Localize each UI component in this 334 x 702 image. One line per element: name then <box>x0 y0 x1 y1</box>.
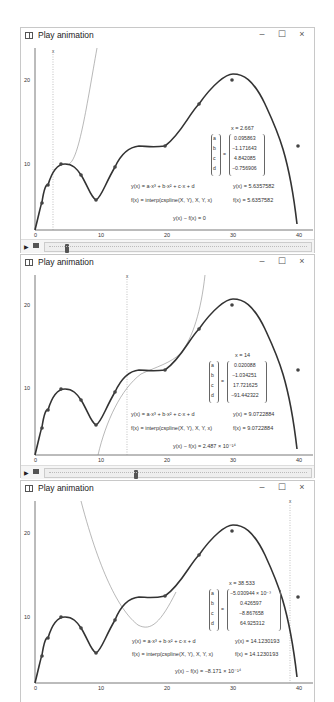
close-button[interactable]: × <box>295 482 309 492</box>
minimize-button[interactable]: – <box>255 256 269 266</box>
maximize-button[interactable]: ☐ <box>275 29 289 39</box>
x-tick-0: 0 <box>34 685 37 691</box>
cursor-label: x <box>52 49 54 54</box>
spline-equation: f(x) = interp(cspline(X, Y), X, Y, x) <box>132 651 213 657</box>
animation-window-3: Play animation – ☐ × x 20 10 0 10 20 30 … <box>20 480 315 702</box>
y-tick-20: 20 <box>24 77 30 83</box>
y-tick-20: 20 <box>24 302 30 308</box>
y-tick-20: 20 <box>24 530 30 536</box>
title-bar[interactable]: Play animation – ☐ × <box>21 481 314 497</box>
title-bar[interactable]: Play animation – ☐ × <box>21 28 314 44</box>
y-tick-10: 10 <box>24 385 30 391</box>
window-title: Play animation <box>38 257 94 267</box>
window-title: Play animation <box>38 30 94 40</box>
play-icon[interactable]: ▶ <box>24 243 29 250</box>
x-tick-20: 20 <box>164 457 170 463</box>
plot-area: x 20 10 0 10 20 30 40 x = 38.533 a b c d… <box>21 497 314 702</box>
x-tick-20: 20 <box>164 232 170 238</box>
spline-equation: f(x) = interp(cspline(X, Y), X, Y, x) <box>131 197 212 203</box>
spline-value: f(x) = 9.0722884 <box>233 425 273 431</box>
x-tick-30: 30 <box>230 232 236 238</box>
title-bar[interactable]: Play animation – ☐ × <box>21 255 314 271</box>
close-button[interactable]: × <box>295 256 309 266</box>
minimize-button[interactable]: – <box>255 482 269 492</box>
spline-value: f(x) = 14.1230193 <box>235 651 278 657</box>
x-tick-40: 40 <box>296 232 302 238</box>
maximize-button[interactable]: ☐ <box>275 482 289 492</box>
folder-icon[interactable] <box>33 243 39 248</box>
spline-equation: f(x) = interp(cspline(X, Y), X, Y, x) <box>131 425 212 431</box>
difference-value: y(x) − f(x) = 0 <box>173 215 206 221</box>
spline-chart <box>21 271 314 465</box>
close-button[interactable]: × <box>295 29 309 39</box>
cursor-label: x <box>289 499 291 504</box>
app-icon <box>25 485 33 492</box>
y-tick-10: 10 <box>24 614 30 620</box>
cubic-value: y(x) = 14.1230193 <box>235 638 280 644</box>
animation-controls: ▶ <box>21 239 314 253</box>
x-tick-10: 10 <box>98 685 104 691</box>
animation-window-1: Play animation – ☐ × x 20 10 0 10 20 30 … <box>20 27 315 253</box>
animation-slider[interactable] <box>44 468 312 478</box>
difference-value: y(x) − f(x) = −8.171 × 10⁻¹⁴ <box>175 668 241 674</box>
x-tick-30: 30 <box>230 685 236 691</box>
x-tick-10: 10 <box>98 457 104 463</box>
x-tick-40: 40 <box>296 685 302 691</box>
x-tick-10: 10 <box>98 232 104 238</box>
play-icon[interactable]: ▶ <box>24 469 29 476</box>
maximize-button[interactable]: ☐ <box>275 256 289 266</box>
spline-value: f(x) = 5.6357582 <box>233 197 273 203</box>
plot-area: x 20 10 0 10 20 30 40 x = 14 a b c d = 0… <box>21 271 314 465</box>
animation-window-2: Play animation – ☐ × x 20 10 0 10 20 30 … <box>20 254 315 478</box>
slider-thumb[interactable] <box>65 244 69 253</box>
x-tick-0: 0 <box>34 232 37 238</box>
folder-icon[interactable] <box>33 469 39 474</box>
cubic-equation: y(x) = a·x³ + b·x² + c·x + d <box>132 638 196 644</box>
x-tick-20: 20 <box>164 685 170 691</box>
slider-thumb[interactable] <box>134 470 138 479</box>
cubic-equation: y(x) = a·x³ + b·x² + c·x + d <box>131 183 195 189</box>
y-tick-10: 10 <box>24 161 30 167</box>
cubic-equation: y(x) = a·x³ + b·x² + c·x + d <box>131 411 195 417</box>
x-value-label: x = 38.533 <box>229 580 255 586</box>
cubic-value: y(x) = 9.0722884 <box>233 411 274 417</box>
difference-value: y(x) − f(x) = 2.487 × 10⁻¹⁴ <box>173 443 236 449</box>
animation-controls: ▶ <box>21 465 314 479</box>
cubic-value: y(x) = 5.6357582 <box>233 183 274 189</box>
x-value-label: x = 2.667 <box>231 125 254 131</box>
cursor-label: x <box>126 274 128 279</box>
window-title: Play animation <box>38 483 94 493</box>
x-tick-30: 30 <box>230 457 236 463</box>
plot-area: x 20 10 0 10 20 30 40 x = 2.667 a b c d … <box>21 44 314 240</box>
x-tick-40: 40 <box>296 457 302 463</box>
minimize-button[interactable]: – <box>255 29 269 39</box>
spline-chart <box>21 44 314 240</box>
animation-slider[interactable] <box>44 242 312 252</box>
x-tick-0: 0 <box>34 457 37 463</box>
x-value-label: x = 14 <box>235 352 250 358</box>
app-icon <box>25 32 33 39</box>
app-icon <box>25 259 33 266</box>
